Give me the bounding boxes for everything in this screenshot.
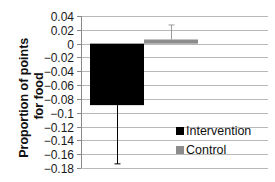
y-tick-label: −0.18 <box>44 162 75 176</box>
legend-swatch-intervention <box>176 127 184 135</box>
y-tick-label: 0.02 <box>51 24 75 38</box>
y-tick-label: −0.1 <box>50 107 74 121</box>
bar-intervention <box>90 44 144 105</box>
y-tick-label: 0.04 <box>51 10 75 24</box>
legend-label-control: Control <box>186 143 226 157</box>
y-tick-label: −0.12 <box>44 121 75 135</box>
bars <box>90 25 198 164</box>
legend-label-intervention: Intervention <box>186 124 251 138</box>
legend-swatch-control <box>176 146 184 154</box>
y-tick-label: −0.06 <box>44 79 75 93</box>
y-tick-label: −0.14 <box>44 134 75 148</box>
chart: 0.040.020−0.02−0.04−0.06−0.08−0.1−0.12−0… <box>0 0 275 182</box>
y-tick-label: −0.16 <box>44 148 75 162</box>
bar-control <box>144 39 198 43</box>
y-tick-label: 0 <box>67 38 74 52</box>
y-tick-label: −0.04 <box>44 65 75 79</box>
y-axis-ticks: 0.040.020−0.02−0.04−0.06−0.08−0.1−0.12−0… <box>44 10 81 176</box>
y-axis-label-line-2: for food <box>32 72 46 119</box>
y-axis-label-line-1: Proportion of points <box>17 38 31 158</box>
y-tick-label: −0.02 <box>44 51 75 65</box>
y-tick-label: −0.08 <box>44 93 75 107</box>
y-axis-label: Proportion of points for food <box>17 34 46 158</box>
